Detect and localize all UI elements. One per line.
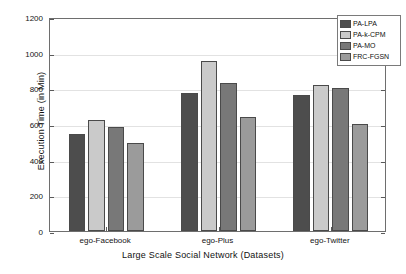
bar	[240, 117, 257, 231]
y-tick-mark	[50, 162, 54, 163]
x-tick-label: ego-Facebook	[45, 236, 165, 245]
bar	[127, 143, 144, 231]
y-tick-label: 200	[3, 192, 43, 201]
legend-swatch-icon	[340, 20, 351, 28]
y-tick-mark	[381, 126, 385, 127]
y-tick-mark	[381, 162, 385, 163]
bar	[220, 83, 237, 231]
bar	[313, 85, 330, 231]
legend-item: FRC-FGSN	[340, 52, 398, 62]
legend-label: PA-k-CPM	[353, 31, 386, 39]
y-tick-mark	[381, 197, 385, 198]
x-tick-mark	[219, 227, 220, 231]
y-tick-label: 1200	[3, 14, 43, 23]
y-tick-mark	[50, 126, 54, 127]
bar	[181, 93, 198, 231]
chart-legend: PA-LPAPA-k-CPMPA-MOFRC-FGSN	[337, 15, 401, 66]
y-tick-mark	[50, 19, 54, 20]
legend-item: PA-LPA	[340, 19, 398, 29]
legend-swatch-icon	[340, 31, 351, 39]
legend-label: PA-LPA	[353, 20, 377, 28]
y-tick-label: 800	[3, 85, 43, 94]
legend-item: PA-k-CPM	[340, 30, 398, 40]
gridline	[50, 55, 385, 56]
y-tick-label: 1000	[3, 49, 43, 58]
x-tick-mark	[106, 227, 107, 231]
x-axis-title: Large Scale Social Network (Datasets)	[0, 250, 406, 260]
y-tick-mark	[50, 197, 54, 198]
bar	[69, 134, 86, 231]
y-tick-mark	[50, 55, 54, 56]
bar	[332, 88, 349, 231]
bar-chart-figure: Execution Time (in Min) 0200400600800100…	[0, 0, 406, 274]
x-tick-label: ego-Plus	[158, 236, 278, 245]
y-tick-label: 600	[3, 121, 43, 130]
bar	[293, 95, 310, 231]
bar	[201, 61, 218, 231]
legend-swatch-icon	[340, 42, 351, 50]
x-tick-label: ego-Twitter	[270, 236, 390, 245]
legend-item: PA-MO	[340, 41, 398, 51]
y-tick-mark	[381, 90, 385, 91]
plot-area	[49, 18, 386, 232]
bar	[88, 120, 105, 231]
y-tick-mark	[50, 233, 54, 234]
bar	[352, 124, 369, 231]
bar	[108, 127, 125, 231]
y-tick-mark	[50, 90, 54, 91]
legend-swatch-icon	[340, 53, 351, 61]
y-tick-mark	[381, 233, 385, 234]
y-tick-label: 0	[3, 228, 43, 237]
legend-label: PA-MO	[353, 42, 375, 50]
x-tick-mark	[331, 227, 332, 231]
y-tick-label: 400	[3, 156, 43, 165]
legend-label: FRC-FGSN	[353, 53, 389, 61]
